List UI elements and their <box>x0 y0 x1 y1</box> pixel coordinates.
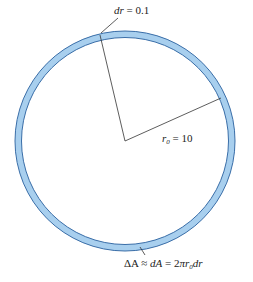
dr-value: = 0.1 <box>124 4 149 16</box>
area-dr: dr <box>193 257 203 269</box>
ring-diagram <box>0 0 253 282</box>
r0-value: = 10 <box>170 132 193 144</box>
dr-label: dr = 0.1 <box>114 5 149 16</box>
dr-var: dr <box>114 4 124 16</box>
area-eq: = 2 <box>162 257 179 269</box>
area-lhs: ΔA ≈ <box>124 257 150 269</box>
area-dA: dA <box>150 257 162 269</box>
area-label: ΔA ≈ dA = 2πr0dr <box>124 258 202 271</box>
r0-label: r0 = 10 <box>162 133 193 146</box>
dr-leader-line <box>101 18 118 33</box>
